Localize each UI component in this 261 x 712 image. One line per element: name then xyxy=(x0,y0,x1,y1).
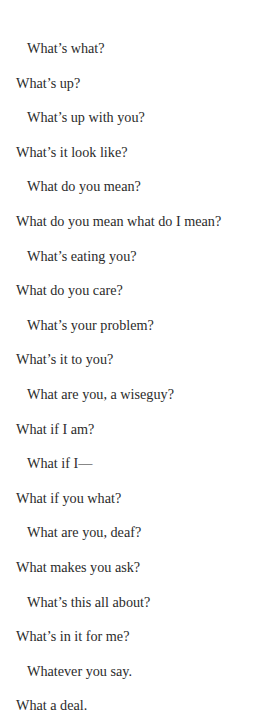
dialogue-line: What if you what? xyxy=(0,488,261,523)
dialogue-line: What’s what? xyxy=(0,38,261,73)
dialogue-line: What if I— xyxy=(0,453,261,488)
dialogue-line: What makes you ask? xyxy=(0,557,261,592)
dialogue-line: What do you mean what do I mean? xyxy=(0,211,261,246)
dialogue-line: What’s it look like? xyxy=(0,142,261,177)
dialogue-line: What are you, deaf? xyxy=(0,522,261,557)
dialogue-list: What’s what? What’s up? What’s up with y… xyxy=(0,38,261,712)
dialogue-line: What are you, a wiseguy? xyxy=(0,384,261,419)
dialogue-line: What a deal. xyxy=(0,695,261,712)
dialogue-line: Whatever you say. xyxy=(0,661,261,696)
dialogue-line: What’s eating you? xyxy=(0,246,261,281)
dialogue-line: What if I am? xyxy=(0,419,261,454)
dialogue-line: What’s your problem? xyxy=(0,315,261,350)
dialogue-line: What’s in it for me? xyxy=(0,626,261,661)
dialogue-line: What’s this all about? xyxy=(0,592,261,627)
dialogue-line: What do you care? xyxy=(0,280,261,315)
dialogue-line: What’s up? xyxy=(0,73,261,108)
dialogue-line: What’s it to you? xyxy=(0,349,261,384)
page-heading-cropped xyxy=(16,0,261,5)
dialogue-line: What’s up with you? xyxy=(0,107,261,142)
dialogue-line: What do you mean? xyxy=(0,176,261,211)
